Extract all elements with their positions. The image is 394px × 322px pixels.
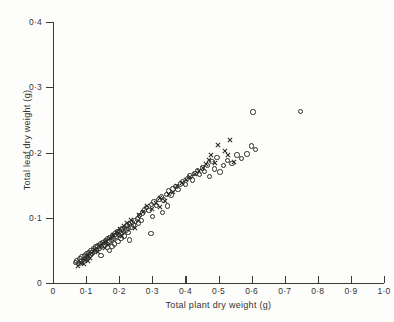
data-point-circle	[160, 210, 165, 215]
y-tick-mark	[46, 22, 53, 23]
data-point-cross	[95, 249, 101, 255]
data-point-cross	[162, 198, 168, 204]
data-point-circle	[217, 169, 222, 174]
data-point-circle	[244, 151, 249, 156]
x-tick-mark	[384, 276, 385, 283]
data-point-cross	[132, 225, 138, 231]
x-tick-label: 0·7	[272, 286, 298, 296]
x-tick-label: 0	[40, 286, 66, 296]
data-point-cross	[170, 189, 176, 195]
x-tick-label: 0·1	[73, 286, 99, 296]
data-point-cross	[149, 206, 155, 212]
data-point-cross	[140, 209, 146, 215]
data-point-cross	[225, 152, 231, 158]
data-point-circle	[250, 109, 255, 114]
data-point-circle	[127, 237, 132, 242]
data-point-cross	[128, 217, 134, 223]
y-tick-mark	[46, 283, 53, 284]
data-point-circle	[212, 166, 217, 171]
data-point-circle	[165, 203, 170, 208]
plot-area	[53, 22, 384, 283]
x-tick-label: 0·8	[305, 286, 331, 296]
data-point-cross	[227, 137, 233, 143]
x-tick-label: 0·4	[172, 286, 198, 296]
data-point-circle	[207, 174, 212, 179]
data-point-cross	[208, 152, 214, 158]
y-tick-mark	[46, 218, 53, 219]
data-point-circle	[221, 163, 226, 168]
data-point-cross	[231, 159, 237, 165]
data-point-circle	[148, 231, 153, 236]
x-axis-title: Total plant dry weight (g)	[53, 300, 384, 310]
y-tick-mark	[46, 153, 53, 154]
data-point-circle	[150, 214, 155, 219]
data-point-circle	[298, 109, 303, 114]
x-tick-label: 0·9	[338, 286, 364, 296]
y-tick-label: 0	[14, 278, 42, 288]
data-point-cross	[157, 204, 163, 210]
data-point-circle	[125, 230, 130, 235]
y-tick-mark	[46, 87, 53, 88]
data-point-cross	[215, 142, 221, 148]
x-tick-label: 0·3	[139, 286, 165, 296]
y-axis-title: Total leaf dry weight (g)	[22, 40, 32, 240]
data-point-circle	[253, 147, 258, 152]
x-axis-line	[53, 283, 384, 284]
data-point-cross	[212, 160, 218, 166]
data-point-cross	[119, 233, 125, 239]
y-tick-label: 0·4	[14, 17, 42, 27]
data-point-cross	[85, 258, 91, 264]
data-point-circle	[138, 218, 143, 223]
data-point-cross	[105, 242, 111, 248]
x-tick-label: 0·6	[239, 286, 265, 296]
data-point-circle	[239, 156, 244, 161]
data-point-cross	[206, 157, 212, 163]
x-tick-label: 0·5	[206, 286, 232, 296]
x-tick-label: 1·0	[371, 286, 394, 296]
scatter-plot-figure: 00·10·20·30·4 00·10·20·30·40·50·60·70·80…	[0, 0, 394, 322]
x-tick-label: 0·2	[106, 286, 132, 296]
